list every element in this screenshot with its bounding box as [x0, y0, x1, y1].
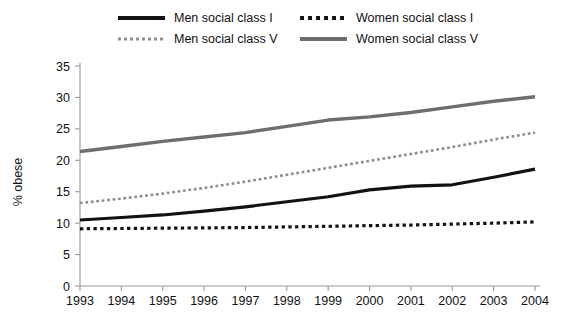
y-tick-label: 20	[56, 154, 70, 168]
y-tick-label: 25	[56, 122, 70, 136]
x-tick-label: 2000	[356, 294, 384, 308]
legend-swatch-women-social-class-i-icon	[300, 12, 347, 24]
legend-swatch-men-social-class-i-icon	[118, 12, 165, 24]
obesity-trend-chart: Men social class I Men social class V Wo…	[0, 0, 566, 330]
plot-svg: 05101520253035 1993199419951996199719981…	[0, 55, 566, 330]
series-line-women-I	[80, 222, 535, 229]
legend-label-women-social-class-v: Women social class V	[356, 32, 478, 46]
y-tick-label: 0	[63, 280, 70, 294]
x-tick-label: 1995	[149, 294, 177, 308]
y-tick-label: 5	[63, 248, 70, 262]
x-tick-label: 1997	[232, 294, 260, 308]
x-tick-label: 2002	[438, 294, 466, 308]
y-tick-label: 10	[56, 217, 70, 231]
legend-item-women-social-class-i: Women social class I	[300, 8, 473, 27]
legend-label-men-social-class-v: Men social class V	[174, 32, 278, 46]
legend-item-women-social-class-v: Women social class V	[300, 29, 478, 48]
x-tick-label: 2003	[480, 294, 508, 308]
series-line-women-V	[80, 97, 535, 152]
legend-item-men-social-class-v: Men social class V	[118, 29, 278, 48]
y-tick-label: 15	[56, 185, 70, 199]
y-tick-label: 30	[56, 91, 70, 105]
data-series	[80, 97, 535, 229]
legend-label-men-social-class-i: Men social class I	[174, 11, 273, 25]
x-tick-label: 1998	[273, 294, 301, 308]
x-axis-ticks: 1993199419951996199719981999200020012002…	[66, 286, 549, 308]
x-tick-label: 1999	[314, 294, 342, 308]
legend-label-women-social-class-i: Women social class I	[356, 11, 473, 25]
y-tick-label: 35	[56, 60, 70, 74]
x-tick-label: 2004	[521, 294, 549, 308]
chart-legend: Men social class I Men social class V Wo…	[118, 8, 538, 50]
x-tick-label: 1993	[66, 294, 94, 308]
legend-swatch-men-social-class-v-icon	[118, 33, 165, 45]
y-axis-ticks: 05101520253035	[56, 60, 80, 294]
legend-swatch-women-social-class-v-icon	[300, 33, 347, 45]
x-tick-label: 2001	[397, 294, 425, 308]
x-tick-label: 1996	[190, 294, 218, 308]
x-tick-label: 1994	[107, 294, 135, 308]
legend-item-men-social-class-i: Men social class I	[118, 8, 273, 27]
plot-area: % obese 05101520253035 19931994199519961…	[0, 55, 566, 330]
series-line-men-I	[80, 169, 535, 220]
